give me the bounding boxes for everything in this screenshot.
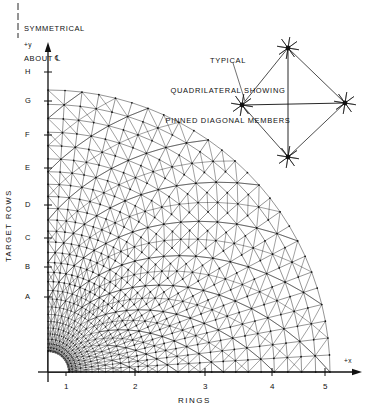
x-axis-arrowhead [352, 369, 362, 375]
x-axis-arrow-label: +x [344, 356, 352, 366]
y-tick-label: C [25, 233, 31, 243]
y-tick-label: G [25, 96, 31, 106]
y-tick-label: H [25, 67, 31, 77]
symmetry-note-line2: ABOUT ℄ [24, 54, 85, 64]
figure-root: SYMMETRICAL ABOUT ℄ TYPICAL QUADRILATERA… [0, 0, 366, 411]
x-tick-label: 2 [133, 382, 138, 392]
y-axis-arrow-label: +y [24, 40, 32, 50]
pinned-node-marker [343, 101, 348, 106]
x-tick-label: 5 [323, 382, 328, 392]
y-tick-label: E [25, 163, 30, 173]
symmetry-note: SYMMETRICAL ABOUT ℄ [24, 4, 85, 84]
x-axis-title: RINGS [178, 396, 211, 406]
y-axis-title: TARGET ROWS [4, 189, 14, 262]
y-tick-label: F [25, 130, 30, 140]
x-tick-label: 1 [64, 382, 69, 392]
y-tick-label: B [25, 262, 30, 272]
x-tick-label: 4 [270, 382, 275, 392]
symmetry-note-line1: SYMMETRICAL [24, 24, 85, 34]
inset-title-line3: PINNED DIAGONAL MEMBERS [148, 116, 308, 126]
x-tick-label: 3 [203, 382, 208, 392]
y-tick-label: D [25, 200, 31, 210]
inset-title: TYPICAL QUADRILATERAL SHOWING PINNED DIA… [148, 36, 308, 146]
pinned-node-marker [286, 155, 291, 160]
inset-title-line2: QUADRILATERAL SHOWING [148, 86, 308, 96]
y-tick-label: A [25, 292, 30, 302]
inset-title-line1: TYPICAL [148, 56, 308, 66]
